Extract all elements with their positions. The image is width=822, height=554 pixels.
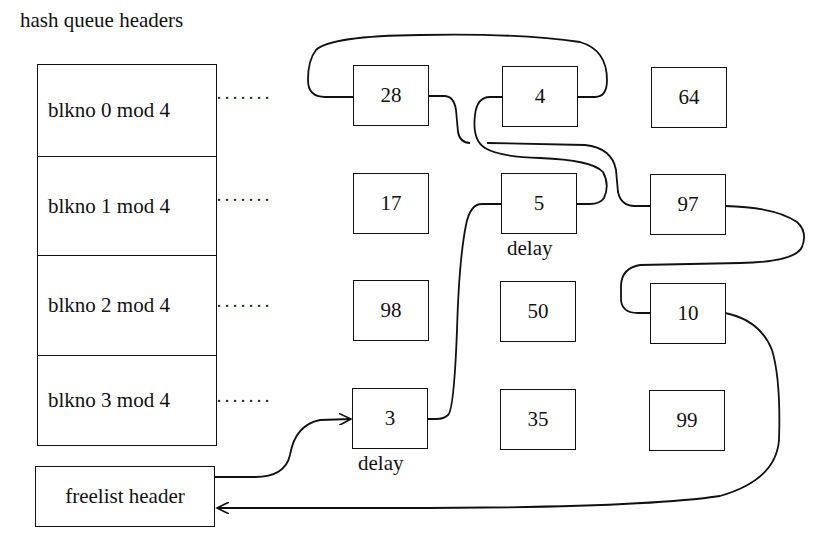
delay-label-buffer-3: delay bbox=[358, 451, 403, 476]
buffer-98: 98 bbox=[353, 280, 429, 341]
buffer-64: 64 bbox=[651, 67, 727, 128]
buffer-17: 17 bbox=[353, 173, 429, 234]
buffer-50: 50 bbox=[500, 281, 576, 342]
buffer-4: 4 bbox=[502, 66, 578, 127]
buffer-5: 5 bbox=[501, 173, 577, 234]
buffer-28: 28 bbox=[353, 65, 429, 126]
freelist-header: freelist header bbox=[35, 466, 215, 527]
buffer-35: 35 bbox=[500, 389, 576, 450]
buffer-99: 99 bbox=[649, 390, 725, 451]
delay-label-buffer-5: delay bbox=[507, 236, 552, 261]
buffer-3: 3 bbox=[352, 388, 428, 449]
buffer-97: 97 bbox=[650, 174, 726, 235]
buffer-10: 10 bbox=[650, 283, 726, 344]
